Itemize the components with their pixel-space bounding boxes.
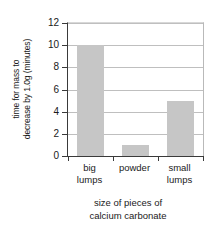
y-axis-tick [62,45,67,46]
y-axis-tick [62,112,67,113]
y-axis-title-line-1: time for mass to [11,18,22,160]
y-axis-tick-label: 6 [53,85,59,95]
x-axis-category-label-line: lumps [67,174,112,186]
plot-area: 024681012 [67,22,204,157]
x-axis-tick [158,156,159,161]
x-axis-tick [68,156,69,161]
y-axis-tick-label: 8 [53,62,59,72]
y-axis-title: time for mass to decrease by 1.0g (minut… [11,18,41,160]
x-axis-title: size of pieces of calcium carbonate [40,196,216,222]
y-axis-tick-label: 4 [53,107,59,117]
x-axis-category-label-line: lumps [157,174,202,186]
y-axis-tick-label: 12 [48,18,59,28]
y-axis-tick [62,134,67,135]
x-axis-tick [203,156,204,161]
x-axis-category-label-line: small [157,162,202,174]
y-axis-tick [62,67,67,68]
y-axis-title-line-2: decrease by 1.0g (minutes) [22,18,33,160]
bar [167,101,193,156]
x-axis-category-label-line: powder [112,162,157,174]
x-axis-category-label: biglumps [67,162,112,186]
x-axis-category-label: smalllumps [157,162,202,186]
y-axis-tick [62,90,67,91]
y-axis-tick [62,156,67,157]
y-axis-tick-label: 2 [53,129,59,139]
bar [77,45,103,156]
x-axis-category-labels: biglumpspowdersmalllumps [67,162,204,196]
x-axis-title-line-2: calcium carbonate [40,209,216,222]
bar [122,145,148,156]
x-axis-category-label-line: big [67,162,112,174]
x-axis-title-line-1: size of pieces of [40,196,216,209]
y-axis-tick-label: 10 [48,40,59,50]
x-axis-category-label: powder [112,162,157,174]
y-axis-tick [62,23,67,24]
x-axis-tick [113,156,114,161]
y-axis-tick-label: 0 [53,151,59,161]
bar-series [68,23,203,156]
bar-chart-figure: time for mass to decrease by 1.0g (minut… [0,0,216,229]
